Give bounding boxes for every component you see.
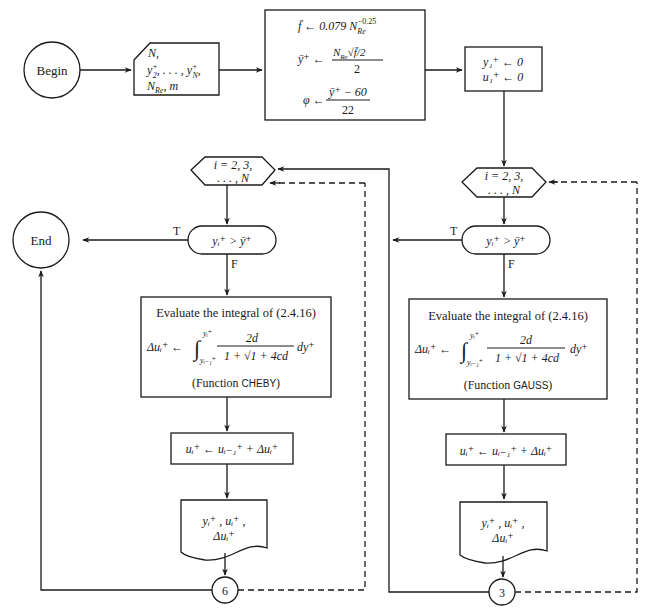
- svg-text:Δuᵢ⁺ ←: Δuᵢ⁺ ←: [414, 342, 451, 356]
- left-connector-label: 6: [222, 584, 228, 598]
- svg-text:Δuᵢ⁺ ←: Δuᵢ⁺ ←: [146, 340, 183, 354]
- right-output-line2: Δuᵢ⁺: [491, 531, 513, 545]
- svg-text:ȳ⁺ ←: ȳ⁺ ←: [297, 52, 325, 66]
- left-output-line2: Δuᵢ⁺: [212, 529, 234, 543]
- right-connector-label: 3: [499, 586, 505, 600]
- svg-text:yᵢ⁺: yᵢ⁺: [202, 329, 212, 338]
- left-decision-label: yᵢ⁺ > ȳ⁺: [211, 234, 251, 248]
- init-zero-text: y₁⁺ ← 0 u₁⁺ ← 0: [482, 55, 523, 84]
- svg-text:yᵢ⁺: yᵢ⁺: [469, 331, 479, 340]
- begin-label: Begin: [36, 63, 68, 78]
- left-loop-line2: . . . , N: [217, 171, 250, 185]
- right-integral-text: Evaluate the integral of (2.4.16) Δuᵢ⁺ ←…: [414, 309, 588, 392]
- svg-text:2: 2: [354, 62, 360, 76]
- svg-text:NRe√f̄/2: NRe√f̄/2: [332, 46, 366, 61]
- svg-text:yᵢ₋₁⁺: yᵢ₋₁⁺: [466, 358, 483, 367]
- input-text: N, y+2, . . . , y+N, NRe, m: [146, 46, 201, 95]
- svg-text:f̄ ← 0.079 NRe−0.25: f̄ ← 0.079 NRe−0.25: [298, 17, 376, 36]
- right-false-label: F: [508, 257, 515, 271]
- svg-text:u₁⁺ ← 0: u₁⁺ ← 0: [483, 70, 524, 84]
- svg-text:y+2, . . . , y+N,: y+2, . . . , y+N,: [146, 62, 201, 80]
- left-integral-text: Evaluate the integral of (2.4.16) Δuᵢ⁺ ←…: [146, 306, 316, 390]
- svg-text:2d: 2d: [246, 331, 259, 345]
- right-decision-label: yᵢ⁺ > ȳ⁺: [485, 234, 525, 248]
- left-output-line1: yᵢ⁺ , uᵢ⁺ ,: [202, 514, 246, 528]
- svg-text:(Function GAUSS): (Function GAUSS): [464, 378, 553, 392]
- init-calc-text: f̄ ← 0.079 NRe−0.25 ȳ⁺ ← NRe√f̄/2 2 φ ← …: [297, 17, 383, 117]
- svg-text:Evaluate the integral of (2.4.: Evaluate the integral of (2.4.16): [156, 306, 316, 320]
- right-output-line1: yᵢ⁺ , uᵢ⁺ ,: [481, 516, 525, 530]
- svg-text:dy⁺: dy⁺: [570, 342, 588, 356]
- svg-text:φ ←: φ ←: [303, 93, 325, 107]
- svg-text:y₁⁺ ← 0: y₁⁺ ← 0: [482, 55, 523, 69]
- svg-text:1 + √1 + 4cd: 1 + √1 + 4cd: [224, 349, 289, 363]
- svg-text:NRe, m: NRe, m: [146, 79, 178, 95]
- left-loop-line1: i = 2, 3,: [214, 158, 252, 172]
- end-label: End: [31, 233, 52, 248]
- right-true-label: T: [450, 224, 458, 238]
- flowchart: Begin N, y+2, . . . , y+N, NRe, m f̄ ← 0…: [0, 0, 647, 615]
- left-false-label: F: [231, 257, 238, 271]
- svg-text:dy⁺: dy⁺: [297, 340, 315, 354]
- svg-text:yᵢ₋₁⁺: yᵢ₋₁⁺: [199, 356, 216, 365]
- svg-text:2d: 2d: [520, 333, 533, 347]
- right-loop-line2: . . . , N: [488, 183, 521, 197]
- svg-text:N,: N,: [147, 46, 159, 60]
- svg-text:Evaluate the integral of (2.4.: Evaluate the integral of (2.4.16): [428, 309, 588, 323]
- svg-text:ȳ⁺ − 60: ȳ⁺ − 60: [328, 85, 367, 99]
- left-true-label: T: [173, 224, 181, 238]
- svg-text:22: 22: [342, 103, 354, 117]
- right-loop-line1: i = 2, 3,: [485, 169, 523, 183]
- svg-text:(Function CHEBY): (Function CHEBY): [192, 376, 280, 390]
- svg-text:1 + √1 + 4cd: 1 + √1 + 4cd: [495, 351, 560, 365]
- left-update-label: uᵢ⁺ ← uᵢ₋₁⁺ + Δuᵢ⁺: [186, 442, 278, 456]
- init-zero-box: [465, 47, 542, 91]
- right-update-label: uᵢ⁺ ← uᵢ₋₁⁺ + Δuᵢ⁺: [460, 444, 552, 458]
